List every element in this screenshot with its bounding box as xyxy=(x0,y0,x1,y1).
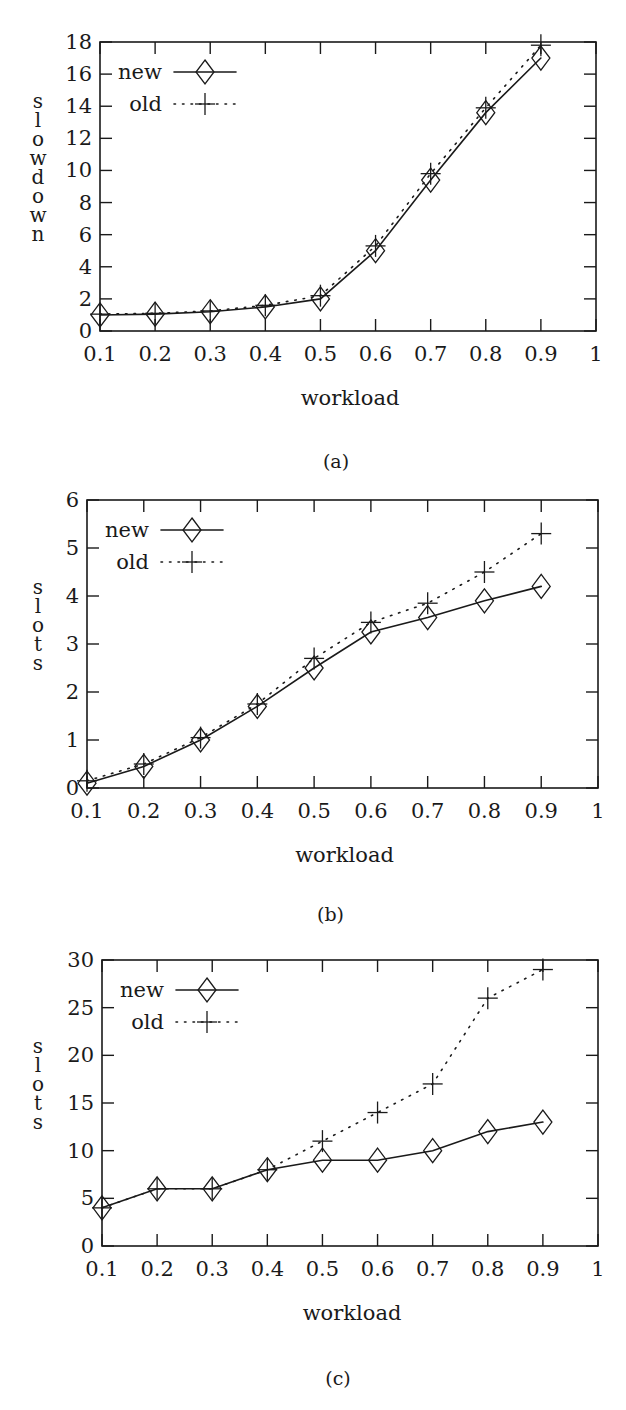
x-tick-label: 0.3 xyxy=(184,799,217,823)
y-tick-label: 30 xyxy=(67,948,94,972)
plus-marker-icon xyxy=(418,592,438,614)
y-tick-label: 6 xyxy=(66,488,79,512)
x-tick-label: 0.2 xyxy=(138,342,171,366)
chart-caption: (c) xyxy=(325,1367,350,1389)
x-tick-label: 0.9 xyxy=(525,799,558,823)
legend-item-old: old xyxy=(116,550,223,574)
x-tick-label: 0.9 xyxy=(524,342,557,366)
y-tick-label: 20 xyxy=(67,1043,94,1067)
y-tick-label: 0 xyxy=(66,776,79,800)
y-tick-label: 4 xyxy=(79,255,92,279)
chart-panel-b: 0.10.20.30.40.50.60.70.80.910123456slots… xyxy=(32,488,605,925)
x-tick-label: 0.6 xyxy=(354,799,387,823)
legend: newold xyxy=(118,60,236,116)
x-tick-label: 0.7 xyxy=(411,799,444,823)
y-tick-label: 0 xyxy=(79,319,92,343)
legend-label: new xyxy=(118,60,162,84)
y-axis-label: slowdown xyxy=(29,89,46,246)
legend: newold xyxy=(120,978,238,1034)
figure-canvas: 0.10.20.30.40.50.60.70.80.91024681012141… xyxy=(0,0,626,1410)
plot-frame xyxy=(100,42,596,331)
plus-marker-icon xyxy=(423,1073,443,1095)
x-tick-label: 0.1 xyxy=(85,1257,118,1281)
x-tick-label: 0.3 xyxy=(196,1257,229,1281)
plus-marker-icon xyxy=(368,1102,388,1124)
legend-label: new xyxy=(120,978,164,1002)
x-tick-label: 0.6 xyxy=(359,342,392,366)
x-tick-label: 0.1 xyxy=(83,342,116,366)
plot-frame xyxy=(87,500,598,788)
plus-marker-icon xyxy=(182,551,202,573)
y-tick-label: 1 xyxy=(66,728,79,752)
x-tick-label: 0.8 xyxy=(469,342,502,366)
x-tick-label: 1 xyxy=(589,342,602,366)
chart-panel-a: 0.10.20.30.40.50.60.70.80.91024681012141… xyxy=(29,30,602,472)
x-tick-label: 1 xyxy=(591,799,604,823)
y-tick-label: 8 xyxy=(79,191,92,215)
x-axis-label: workload xyxy=(303,1301,402,1325)
x-axis-ticks: 0.10.20.30.40.50.60.70.80.91 xyxy=(70,500,604,823)
y-tick-label: 15 xyxy=(67,1091,94,1115)
x-tick-label: 0.5 xyxy=(304,342,337,366)
plus-marker-icon xyxy=(533,959,553,981)
y-axis-label: slots xyxy=(32,1034,44,1134)
chart-caption: (a) xyxy=(323,450,349,472)
x-tick-label: 0.3 xyxy=(194,342,227,366)
y-tick-label: 6 xyxy=(79,223,92,247)
plot-frame xyxy=(102,960,598,1246)
legend-item-new: new xyxy=(118,60,236,84)
legend-item-old: old xyxy=(131,1010,238,1034)
legend-item-new: new xyxy=(105,518,223,542)
legend: newold xyxy=(105,518,223,574)
x-tick-label: 0.4 xyxy=(251,1257,284,1281)
plus-marker-icon xyxy=(195,93,215,115)
x-tick-label: 0.5 xyxy=(306,1257,339,1281)
legend-label: new xyxy=(105,518,149,542)
chart-caption: (b) xyxy=(317,903,344,925)
plus-marker-icon xyxy=(478,987,498,1009)
plus-marker-icon xyxy=(474,561,494,583)
y-tick-label: 5 xyxy=(81,1186,94,1210)
x-tick-label: 0.2 xyxy=(127,799,160,823)
x-tick-label: 0.4 xyxy=(249,342,282,366)
x-tick-label: 0.2 xyxy=(140,1257,173,1281)
x-axis-label: workload xyxy=(295,843,394,867)
legend-label: old xyxy=(116,550,149,574)
y-axis-label-letter: s xyxy=(33,1110,43,1134)
x-tick-label: 0.4 xyxy=(241,799,274,823)
y-tick-label: 0 xyxy=(81,1234,94,1258)
legend-label: old xyxy=(129,92,162,116)
x-tick-label: 0.8 xyxy=(468,799,501,823)
y-tick-label: 3 xyxy=(66,632,79,656)
x-tick-label: 0.6 xyxy=(361,1257,394,1281)
plus-marker-icon xyxy=(197,1011,217,1033)
series-new xyxy=(93,1110,552,1220)
series-old-line xyxy=(100,45,541,314)
x-tick-label: 1 xyxy=(591,1257,604,1281)
y-tick-label: 10 xyxy=(65,158,92,182)
y-tick-label: 25 xyxy=(67,996,94,1020)
x-tick-label: 0.7 xyxy=(414,342,447,366)
y-tick-label: 4 xyxy=(66,584,79,608)
y-tick-label: 2 xyxy=(79,287,92,311)
y-axis-label: slots xyxy=(32,575,44,675)
x-tick-label: 0.9 xyxy=(526,1257,559,1281)
y-axis-label-letter: s xyxy=(33,651,43,675)
x-tick-label: 0.8 xyxy=(471,1257,504,1281)
x-tick-label: 0.5 xyxy=(297,799,330,823)
x-axis-ticks: 0.10.20.30.40.50.60.70.80.91 xyxy=(85,960,604,1281)
figure: 0.10.20.30.40.50.60.70.80.91024681012141… xyxy=(0,0,626,1410)
y-tick-label: 10 xyxy=(67,1139,94,1163)
series-new-line xyxy=(100,58,541,315)
y-tick-label: 12 xyxy=(65,126,92,150)
y-tick-label: 14 xyxy=(65,94,92,118)
plus-marker-icon xyxy=(531,523,551,545)
legend-label: old xyxy=(131,1010,164,1034)
chart-panel-c: 0.10.20.30.40.50.60.70.80.91051015202530… xyxy=(32,948,605,1389)
series-new xyxy=(78,574,550,795)
legend-item-old: old xyxy=(129,92,236,116)
legend-item-new: new xyxy=(120,978,238,1002)
y-tick-label: 16 xyxy=(65,62,92,86)
x-axis-label: workload xyxy=(301,386,400,410)
x-tick-label: 0.1 xyxy=(70,799,103,823)
